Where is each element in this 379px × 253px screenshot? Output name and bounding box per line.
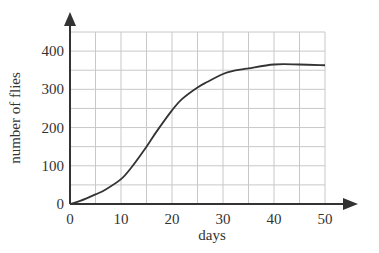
y-tick-label: 300 <box>42 81 65 97</box>
grid-lines <box>70 32 325 204</box>
x-tick-label: 10 <box>114 211 129 227</box>
axes <box>64 12 358 210</box>
x-axis-arrow-icon <box>343 198 358 210</box>
x-tick-label: 0 <box>66 211 74 227</box>
y-tick-label: 100 <box>42 158 65 174</box>
y-tick-label: 0 <box>57 196 65 212</box>
y-tick-label: 400 <box>42 43 65 59</box>
x-axis-label: days <box>198 227 226 243</box>
x-tick-label: 30 <box>216 211 231 227</box>
y-axis-arrow-icon <box>64 12 76 26</box>
line-chart: 01020304050 0100200300400 days number of… <box>0 0 379 253</box>
y-tick-labels: 0100200300400 <box>42 43 65 212</box>
y-axis-label: number of flies <box>7 72 23 164</box>
x-tick-label: 50 <box>318 211 333 227</box>
x-tick-label: 40 <box>267 211 282 227</box>
x-tick-label: 20 <box>165 211 180 227</box>
y-tick-label: 200 <box>42 120 65 136</box>
x-tick-labels: 01020304050 <box>66 211 332 227</box>
